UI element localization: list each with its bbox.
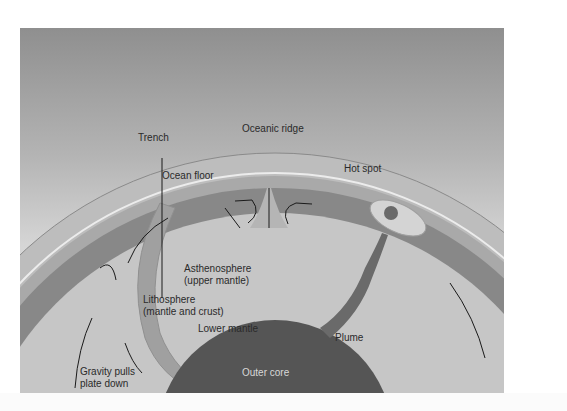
earth-cross-section — [20, 28, 504, 393]
label-lithosphere-sub: (mantle and crust) — [143, 306, 224, 317]
label-outer-core: Outer core — [242, 367, 289, 378]
label-oceanic-ridge: Oceanic ridge — [242, 123, 304, 134]
label-gravity-sub: plate down — [80, 378, 128, 389]
label-lower-mantle: Lower mantle — [198, 323, 258, 334]
plume-head — [384, 206, 398, 220]
label-hot-spot: Hot spot — [344, 163, 381, 174]
label-gravity: Gravity pulls — [80, 366, 135, 377]
bottom-margin — [0, 393, 567, 411]
label-asthenosphere-sub: (upper mantle) — [184, 275, 249, 286]
label-ocean-floor: Ocean floor — [162, 170, 214, 181]
label-trench: Trench — [138, 132, 169, 143]
label-asthenosphere: Asthenosphere — [184, 263, 251, 274]
label-lithosphere: Lithosphere — [143, 294, 195, 305]
diagram-frame: Trench Oceanic ridge Ocean floor Hot spo… — [20, 28, 504, 393]
label-plume: Plume — [335, 332, 363, 343]
